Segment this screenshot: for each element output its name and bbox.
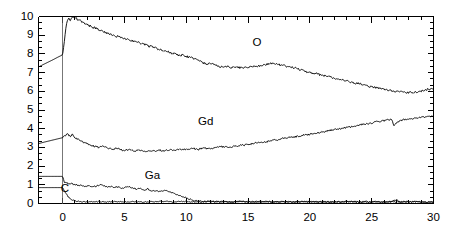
- x-tick-label-30: 30: [414, 212, 454, 224]
- y-tick-label-1: 1: [27, 179, 33, 191]
- series-line-o: [39, 17, 434, 93]
- y-tick-label-10: 10: [21, 11, 34, 23]
- series-label-ga: Ga: [145, 170, 160, 182]
- x-tick-label-20: 20: [290, 212, 330, 224]
- y-tick-label-4: 4: [27, 123, 33, 135]
- y-tick-label-5: 5: [27, 104, 33, 116]
- x-tick-label-15: 15: [228, 212, 268, 224]
- series-label-o: O: [252, 37, 261, 49]
- y-tick-label-9: 9: [27, 29, 33, 41]
- series-line-ga: [39, 176, 434, 203]
- y-tick-label-2: 2: [27, 160, 33, 172]
- y-tick-label-6: 6: [27, 85, 33, 97]
- series-label-c: C: [61, 183, 69, 195]
- x-tick-label-5: 5: [104, 212, 144, 224]
- y-tick-label-0: 0: [27, 198, 33, 210]
- x-tick-label-10: 10: [166, 212, 206, 224]
- x-tick-label-0: 0: [43, 212, 83, 224]
- axis-ticks: [39, 17, 434, 204]
- data-series-group: [39, 17, 434, 203]
- series-line-gd: [39, 116, 434, 152]
- y-tick-label-7: 7: [27, 67, 33, 79]
- series-label-gd: Gd: [198, 116, 213, 128]
- x-tick-label-25: 25: [352, 212, 392, 224]
- y-tick-label-3: 3: [27, 141, 33, 153]
- plot-frame: [39, 17, 434, 204]
- plot-area: [0, 0, 464, 236]
- chart-container: 012345678910 051015202530 OGdGaC: [0, 0, 464, 236]
- y-tick-label-8: 8: [27, 48, 33, 60]
